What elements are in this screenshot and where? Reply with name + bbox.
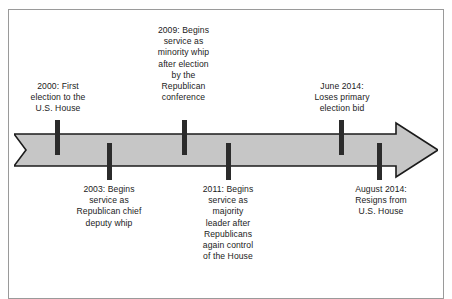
- tick-2011: [226, 143, 231, 180]
- event-label-2011: 2011: Begins service as majority leader …: [173, 184, 283, 262]
- event-label-august-2014: August 2014: Resigns from U.S. House: [327, 184, 435, 218]
- tick-2009: [182, 120, 187, 155]
- tick-2000: [55, 120, 60, 155]
- tick-2003: [107, 143, 112, 180]
- tick-august-2014: [377, 143, 382, 180]
- event-label-2003: 2003: Begins service as Republican chief…: [52, 184, 166, 229]
- event-label-2009: 2009: Begins service as minority whip af…: [127, 25, 240, 103]
- event-label-june-2014: June 2014: Loses primary election bid: [287, 81, 397, 115]
- tick-june-2014: [339, 120, 344, 155]
- event-label-2000: 2000: First election to the U.S. House: [0, 81, 118, 115]
